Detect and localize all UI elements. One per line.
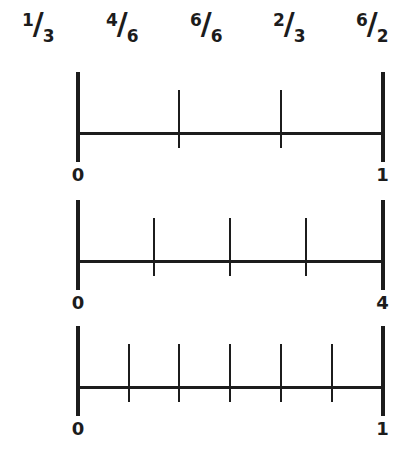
- endpoint-tick-right: [381, 326, 385, 416]
- division-tick: [280, 344, 282, 402]
- division-tick: [128, 344, 130, 402]
- fraction-slash: /: [33, 9, 44, 39]
- fraction-denominator: 3: [294, 28, 306, 45]
- endpoint-tick-left: [76, 72, 80, 162]
- fraction-denominator: 2: [377, 28, 389, 45]
- division-tick: [331, 344, 333, 402]
- end-label: 4: [365, 292, 401, 314]
- fraction-denominator: 3: [43, 28, 55, 45]
- endpoint-tick-right: [381, 200, 385, 290]
- fraction-4-6: 4 / 6: [106, 12, 139, 45]
- fraction-6-2: 6 / 2: [356, 12, 389, 45]
- start-label: 0: [60, 292, 96, 314]
- start-label: 0: [60, 418, 96, 440]
- endpoint-tick-right: [381, 72, 385, 162]
- fraction-slash: /: [117, 9, 128, 39]
- fraction-slash: /: [201, 9, 212, 39]
- division-tick: [178, 344, 180, 402]
- endpoint-tick-left: [76, 326, 80, 416]
- number-line-thirds: 0 1: [0, 72, 405, 192]
- division-tick: [229, 218, 231, 276]
- division-tick: [305, 218, 307, 276]
- end-label: 1: [365, 418, 401, 440]
- fraction-1-3: 1 / 3: [22, 12, 55, 45]
- fraction-denominator: 6: [127, 28, 139, 45]
- number-line-sixths: 0 1: [0, 326, 405, 446]
- fraction-2-3: 2 / 3: [273, 12, 306, 45]
- fraction-6-6: 6 / 6: [190, 12, 223, 45]
- fraction-denominator: 6: [211, 28, 223, 45]
- start-label: 0: [60, 164, 96, 186]
- number-line-baseline: [76, 132, 385, 135]
- division-tick: [153, 218, 155, 276]
- endpoint-tick-left: [76, 200, 80, 290]
- fraction-slash: /: [284, 9, 295, 39]
- fraction-number-line-worksheet: 1 / 3 4 / 6 6 / 6 2 / 3 6 / 2 0 1 0 4: [0, 0, 405, 456]
- division-tick: [229, 344, 231, 402]
- end-label: 1: [365, 164, 401, 186]
- division-tick: [280, 90, 282, 148]
- number-line-quarters: 0 4: [0, 200, 405, 320]
- division-tick: [178, 90, 180, 148]
- fraction-slash: /: [367, 9, 378, 39]
